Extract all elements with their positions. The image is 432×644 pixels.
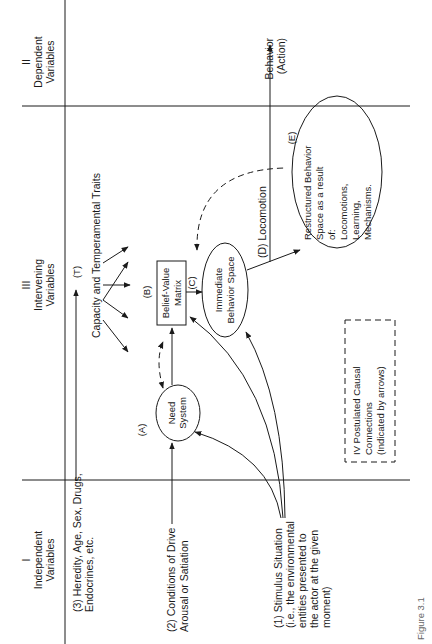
header-dependent: II Dependent Variables [20, 36, 56, 87]
legend-text: IV Postulated Causal Connections (Indica… [351, 366, 386, 455]
svg-text:I: I [20, 559, 32, 562]
input-drive: (2) Conditions of Drive Arousal or Satia… [165, 527, 190, 632]
svg-text:Immediate: Immediate [213, 268, 224, 312]
causal-model-diagram: II Dependent Variables III Intervening V… [0, 0, 432, 644]
input-heredity: (3) Heredity, Age, Sex, Drugs, Endocrine… [71, 473, 95, 612]
svg-text:(Indicated by arrows): (Indicated by arrows) [375, 366, 386, 455]
svg-text:II: II [20, 59, 32, 65]
svg-text:the actor at the given: the actor at the given [308, 530, 320, 628]
immediate-to-restructured-arrow [247, 250, 300, 270]
svg-text:Variables: Variables [44, 264, 56, 307]
svg-text:III: III [20, 281, 32, 290]
svg-text:(2) Conditions of Drive: (2) Conditions of Drive [165, 527, 177, 632]
locomotion-label: (D) Locomotion [256, 186, 268, 258]
svg-text:Restructured Behavior: Restructured Behavior [302, 145, 313, 240]
output-behavior: Behavior (Action) [263, 38, 287, 80]
svg-text:Belief-Value: Belief-Value [160, 268, 171, 319]
svg-text:System: System [177, 397, 188, 429]
header-intervening: III Intervening Variables [20, 259, 56, 311]
traits-label: (T) [71, 266, 82, 278]
svg-text:Space as a result: Space as a result [314, 166, 325, 240]
svg-text:Independent: Independent [32, 531, 44, 589]
svg-text:(3) Heredity, Age, Sex, Drugs,: (3) Heredity, Age, Sex, Drugs, [71, 473, 83, 612]
svg-text:Need: Need [166, 402, 177, 425]
restructured-feedback-arrow [197, 168, 285, 250]
svg-text:Behavior Space: Behavior Space [225, 256, 236, 323]
svg-text:entities presented to: entities presented to [296, 533, 308, 628]
svg-text:Intervening: Intervening [32, 259, 44, 311]
traits-arrows [103, 247, 130, 352]
svg-text:Arousal or Satiation: Arousal or Satiation [178, 540, 190, 632]
svg-text:(Action): (Action) [275, 38, 287, 74]
svg-text:(1) Stimulus Situation: (1) Stimulus Situation [272, 528, 284, 628]
svg-text:Variables: Variables [44, 539, 56, 582]
svg-text:Variables: Variables [44, 41, 56, 84]
svg-text:Matrix: Matrix [172, 280, 183, 306]
stimulus-arrows [190, 317, 285, 518]
svg-text:(i.e., the environmental: (i.e., the environmental [284, 521, 296, 628]
need-belief-feedback [159, 342, 163, 388]
need-label: (A) [136, 424, 147, 437]
figure-caption: Figure 3.1 [415, 597, 426, 640]
svg-text:of:: of: [326, 229, 337, 240]
svg-text:Behavior: Behavior [263, 38, 275, 80]
svg-text:Dependent: Dependent [32, 36, 44, 87]
traits-text: Capacity and Temperamental Traits [90, 173, 102, 338]
svg-text:Locomotions,: Locomotions, [338, 183, 349, 240]
svg-text:moment): moment) [320, 587, 332, 628]
svg-text:Connections: Connections [363, 402, 374, 455]
svg-text:Learning,: Learning, [350, 200, 361, 240]
immediate-label: (C) [186, 276, 197, 289]
svg-text:Endocrines, etc.: Endocrines, etc. [83, 537, 95, 612]
svg-text:Mechanisms.: Mechanisms. [362, 184, 373, 240]
belief-label: (B) [141, 286, 152, 299]
header-independent: I Independent Variables [20, 531, 56, 589]
svg-text:IV Postulated Causal: IV Postulated Causal [351, 366, 362, 455]
input-stimulus: (1) Stimulus Situation (i.e., the enviro… [272, 521, 332, 628]
